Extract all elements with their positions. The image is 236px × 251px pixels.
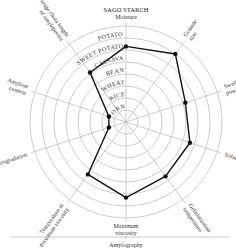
axis-label-group: Gelatinizationtemperature [182,202,213,237]
ring-label: WHEAT [100,78,125,92]
axis-label: Moisture [115,14,137,20]
amylography-label: Amylography [109,242,142,248]
data-point [86,172,90,176]
data-point [183,101,187,105]
axis-label: Retrogradation [0,151,28,168]
axis-label: Maximum [114,223,139,229]
data-point [107,114,111,118]
chart-title: SAGO STARCH [103,6,148,13]
data-point [124,195,128,199]
radar-chart: CORNRICEWHEATBEANCASSAVASWEET POTATOPOTA… [0,0,236,251]
axis-label-group: Granulesize [182,18,204,42]
axis-spoke [67,122,126,203]
data-point [124,44,128,48]
ring-labels: CORNRICEWHEATBEANCASSAVASWEET POTATOPOTA… [0,0,126,116]
data-point [173,52,177,56]
axis-label-group: Solubility [224,151,236,164]
axis-label: Solubility [224,151,236,164]
ring-label: POTATO [97,30,124,41]
axis-label-group: Amylosecontent [4,77,29,96]
axis-label-group: Swellingpower [223,77,236,96]
data-point [107,125,111,129]
data-point [88,70,92,74]
axis-label-group: Temperature atmaximum viscosity [32,202,70,248]
radar-grid [30,22,222,222]
data-point [188,141,192,145]
axis-label-group: Average chain lengthof amylopectin [30,0,70,42]
radar-chart-svg: CORNRICEWHEATBEANCASSAVASWEET POTATOPOTA… [0,0,236,251]
axis-label-group: Retrogradation [0,151,28,168]
data-point [163,174,167,178]
